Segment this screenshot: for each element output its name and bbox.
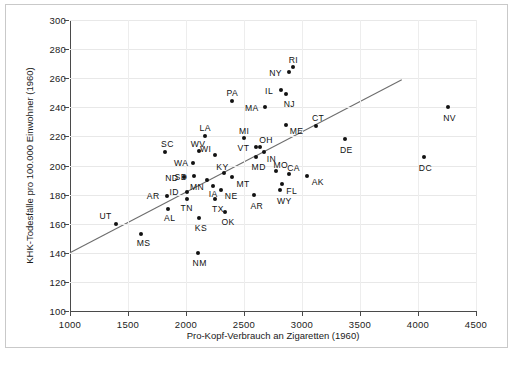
data-point-label: NM: [193, 259, 207, 268]
x-axis-tick-labels: 10001500200025003000350040004500: [70, 312, 476, 328]
data-point: [213, 197, 217, 201]
grid-line-horizontal: [70, 107, 476, 108]
data-point-label: SD: [175, 173, 188, 182]
data-point-label: FL: [286, 187, 297, 196]
data-point-label: MO: [273, 161, 288, 170]
data-point-label: ID: [170, 188, 179, 197]
data-point: [284, 123, 288, 127]
y-axis-tick: [64, 282, 69, 283]
data-point: [242, 136, 246, 140]
data-point-label: RI: [289, 56, 298, 65]
y-axis-tick-labels: 100120140160180200220240260280300: [40, 20, 66, 311]
x-axis-tick: [70, 311, 71, 316]
x-axis-tick-label: 3500: [349, 319, 371, 330]
plot-area: UTMSSCARALNDIDTNWASDNMWVKSLAMNIAWITXNEKY…: [70, 20, 476, 311]
grid-line-vertical: [128, 20, 129, 311]
data-point: [165, 194, 169, 198]
data-point-label: AR: [250, 202, 263, 211]
data-point-label: WA: [174, 159, 188, 168]
data-point-label: IL: [265, 87, 273, 96]
data-point-label: DC: [419, 164, 432, 173]
x-axis-tick: [302, 311, 303, 316]
scatter-plot-figure: 100120140160180200220240260280300 100015…: [0, 0, 513, 377]
x-axis-tick: [186, 311, 187, 316]
x-axis-tick: [360, 311, 361, 316]
data-point-label: VT: [238, 144, 250, 153]
x-axis-tick-label: 2500: [233, 319, 255, 330]
data-point-label: MN: [190, 183, 204, 192]
data-point: [192, 174, 196, 178]
data-point-label: MI: [239, 127, 249, 136]
grid-line-horizontal: [70, 78, 476, 79]
grid-line-vertical: [476, 20, 477, 311]
data-point-label: OK: [221, 218, 234, 227]
y-axis-tick: [64, 195, 69, 196]
x-axis-tick: [244, 311, 245, 316]
grid-line-horizontal: [70, 253, 476, 254]
y-axis-tick: [64, 20, 69, 21]
grid-line-horizontal: [70, 20, 476, 21]
data-point-label: WI: [200, 145, 211, 154]
grid-line-horizontal: [70, 136, 476, 137]
data-point: [254, 145, 258, 149]
grid-line-horizontal: [70, 224, 476, 225]
y-axis-tick: [64, 78, 69, 79]
y-axis-title: KHK-Todesfälle pro 100.000 Einwohner (19…: [24, 20, 35, 311]
data-point-label: CT: [312, 114, 324, 123]
data-point-label: MT: [236, 180, 249, 189]
x-axis-tick-label: 4000: [407, 319, 429, 330]
data-point-label: CA: [287, 164, 300, 173]
data-point: [284, 92, 288, 96]
data-point: [254, 155, 258, 159]
x-axis-tick: [128, 311, 129, 316]
data-point: [185, 190, 189, 194]
data-point: [205, 178, 209, 182]
data-point-label: LA: [200, 124, 211, 133]
data-point-label: KS: [195, 224, 207, 233]
y-axis-tick: [64, 136, 69, 137]
data-point: [139, 232, 143, 236]
y-axis-tick: [64, 224, 69, 225]
x-axis-tick-label: 1500: [117, 319, 139, 330]
data-point-label: WY: [277, 197, 292, 206]
data-point-label: AL: [164, 214, 175, 223]
y-axis-tick: [64, 311, 69, 312]
data-point-label: UT: [99, 212, 111, 221]
grid-line-horizontal: [70, 49, 476, 50]
data-point: [197, 216, 201, 220]
x-axis-tick-label: 4500: [465, 319, 487, 330]
data-point: [196, 251, 200, 255]
data-point-label: MD: [252, 163, 266, 172]
data-point-label: DE: [340, 146, 353, 155]
data-point-label: PA: [226, 89, 238, 98]
data-point-label: MA: [245, 104, 259, 113]
grid-line-vertical: [244, 20, 245, 311]
data-point-label: MS: [137, 239, 151, 248]
grid-line-vertical: [302, 20, 303, 311]
data-point: [211, 184, 215, 188]
grid-line-vertical: [360, 20, 361, 311]
y-axis-tick: [64, 107, 69, 108]
data-point: [185, 197, 189, 201]
data-point-label: NE: [225, 192, 238, 201]
data-point: [291, 65, 295, 69]
x-axis-tick: [418, 311, 419, 316]
y-axis-tick: [64, 166, 69, 167]
data-point: [191, 161, 195, 165]
data-point-label: KY: [216, 163, 228, 172]
data-point-label: SC: [161, 140, 174, 149]
grid-line-horizontal: [70, 282, 476, 283]
data-point: [279, 88, 283, 92]
data-point-label: NY: [269, 69, 282, 78]
y-axis-tick: [64, 49, 69, 50]
data-point-label: NJ: [284, 100, 295, 109]
data-point-label: OH: [259, 136, 273, 145]
x-axis-tick: [476, 311, 477, 316]
data-point: [305, 174, 309, 178]
data-point-label: AK: [312, 178, 324, 187]
x-axis-title: Pro-Kopf-Verbrauch an Zigaretten (1960): [70, 330, 476, 341]
data-point-label: NV: [443, 114, 456, 123]
data-point-label: TN: [181, 204, 193, 213]
data-point-label: ME: [290, 127, 304, 136]
x-axis-tick-label: 3000: [291, 319, 313, 330]
